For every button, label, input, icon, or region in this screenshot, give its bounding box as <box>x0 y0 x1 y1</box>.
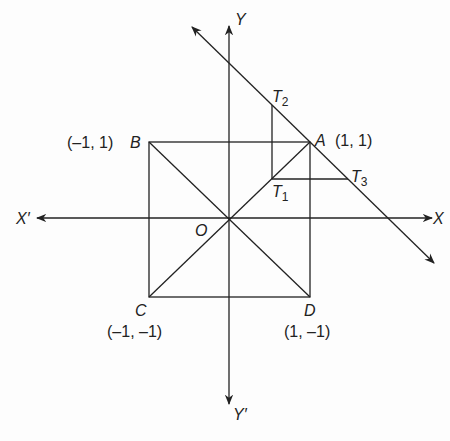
tangent-line-lower <box>310 142 434 263</box>
label-y-prime: Y′ <box>233 406 248 423</box>
label-B: B <box>130 134 141 151</box>
label-D-coords: (1, –1) <box>284 323 330 340</box>
label-origin: O <box>195 222 207 239</box>
label-y: Y <box>235 11 247 28</box>
diagram-canvas: Y Y′ X X′ O A (1, 1) (–1, 1) B C (–1, –1… <box>0 0 450 441</box>
label-x: X <box>432 210 445 227</box>
label-C: C <box>135 302 147 319</box>
tangent-line <box>192 27 310 142</box>
coordinate-diagram: Y Y′ X X′ O A (1, 1) (–1, 1) B C (–1, –1… <box>0 0 450 441</box>
label-A-coords: (1, 1) <box>335 132 372 149</box>
label-A: A <box>314 132 326 149</box>
label-C-coords: (–1, –1) <box>107 323 162 340</box>
label-D: D <box>304 302 316 319</box>
label-T1: T1 <box>272 183 289 204</box>
label-B-coords: (–1, 1) <box>67 134 113 151</box>
label-T3: T3 <box>351 168 368 189</box>
label-T2: T2 <box>272 88 289 109</box>
label-x-prime: X′ <box>15 210 31 227</box>
